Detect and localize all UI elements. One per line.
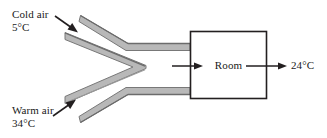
cold-air-label: Cold air 5°C (12, 8, 49, 33)
warm-air-temperature: 34°C (12, 117, 54, 130)
warm-air-name: Warm air (12, 104, 54, 117)
cold-air-arrow-icon (55, 16, 78, 33)
cold-air-name: Cold air (12, 8, 49, 21)
room-box (191, 32, 267, 99)
cold-air-temperature: 5°C (12, 21, 49, 34)
lower-duct (79, 88, 190, 123)
room-inlet-arrow-icon (172, 62, 203, 69)
outlet-temperature-label: 24°C (291, 59, 314, 72)
diagram-canvas: Cold air 5°C Warm air 34°C Room 24°C (0, 0, 327, 138)
warm-air-label: Warm air 34°C (12, 104, 54, 129)
splitter-lower-edge (65, 70, 145, 103)
lower-duct-wall (79, 88, 190, 123)
